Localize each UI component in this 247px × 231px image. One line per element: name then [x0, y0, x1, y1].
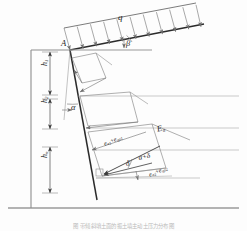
- h2-sub: 2: [44, 97, 49, 99]
- h2-base: h: [40, 99, 49, 103]
- h1-base: h: [40, 62, 49, 66]
- dimension-h1: [42, 52, 58, 95]
- label-height-h1: h1: [41, 60, 50, 66]
- hn-sub: n: [44, 152, 49, 154]
- label-alpha-angle: α: [71, 103, 75, 112]
- soil-layer-lines: [70, 50, 239, 178]
- label-delta-angle: δ: [126, 160, 130, 168]
- figure-caption: 图 带倾斜填土面的振土墙主动土压力分布图: [0, 222, 247, 231]
- label-beta-angle: β: [126, 39, 130, 48]
- pressure-wedge-2: [80, 92, 148, 128]
- pressure-wedge-3: [88, 124, 190, 180]
- h1-sub: 1: [44, 60, 49, 62]
- pressure-wedge-1: [72, 53, 112, 92]
- label-surcharge-q: q: [118, 13, 123, 22]
- earth-pressure-diagram: q β A α h1 h2 hn Ea ea1+eqa1 ea2+eqa2 δ …: [0, 0, 247, 231]
- dimension-h2: [42, 99, 58, 129]
- backfill-slope-surface: [70, 24, 204, 50]
- label-point-a: A: [61, 39, 66, 48]
- hn-base: h: [40, 154, 49, 158]
- diagram-canvas: [0, 0, 247, 231]
- surcharge-load-q: [64, 3, 201, 50]
- label-height-hn: hn: [41, 152, 50, 158]
- retaining-wall: [31, 50, 97, 208]
- label-height-h2: h2: [41, 97, 50, 103]
